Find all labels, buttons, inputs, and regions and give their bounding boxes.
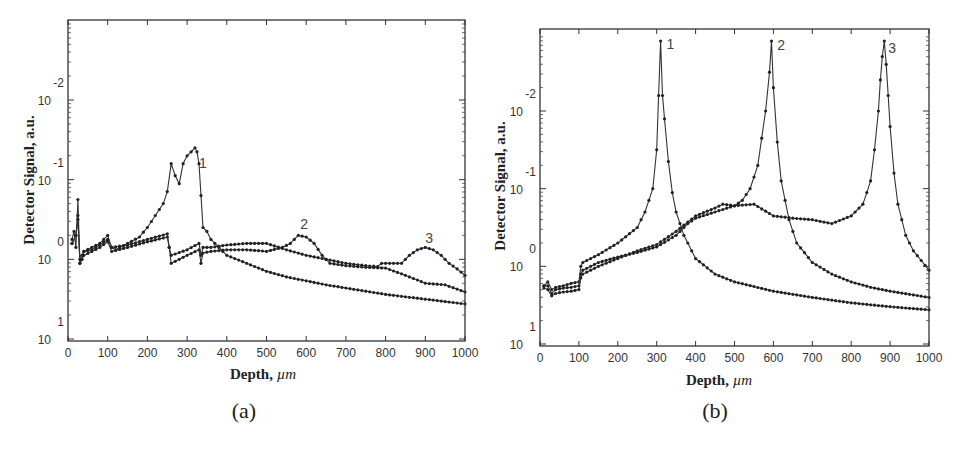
y-tick-label-exp: 0 (57, 235, 64, 249)
y-tick-label-base: 10 (38, 253, 52, 267)
x-tick-label: 900 (880, 351, 900, 365)
curve-label-1: 1 (666, 36, 674, 52)
x-tick-label: 300 (647, 351, 667, 365)
chart-panel-b: 123 0100200300400500600700800900100010-2… (492, 29, 943, 423)
plot-area-a: 123 (70, 146, 466, 305)
x-axis-title-b: Depth, µm (686, 372, 752, 388)
series-line-2 (544, 41, 929, 297)
plot-frame-a (68, 20, 465, 341)
y-tick-label-base: 10 (510, 338, 524, 352)
x-tick-label: 100 (569, 351, 589, 365)
x-tick-label: 200 (137, 346, 157, 360)
y-tick-label-exp: -2 (53, 76, 64, 90)
x-tick-label: 600 (763, 351, 783, 365)
y-tick-label-exp: -2 (525, 87, 536, 101)
y-tick-label-exp: 1 (529, 320, 536, 334)
series-markers-1 (70, 146, 466, 305)
figure: 123 0100200300400500600700800900100010-2… (0, 0, 956, 451)
y-tick-label-exp: -1 (525, 165, 536, 179)
x-tick-label: 200 (608, 351, 628, 365)
series-line-3 (544, 41, 929, 296)
series-markers-2 (70, 214, 466, 294)
series-line-1 (72, 148, 465, 304)
panel-label-b: (b) (702, 398, 728, 423)
x-tick-label: 400 (217, 346, 237, 360)
x-tick-label: 400 (686, 351, 706, 365)
x-tick-label: 1000 (452, 346, 479, 360)
x-tick-label: 0 (537, 351, 544, 365)
x-tick-label: 500 (724, 351, 744, 365)
y-tick-label-base: 10 (510, 260, 524, 274)
x-tick-label: 900 (415, 346, 435, 360)
series-markers-1 (542, 40, 930, 312)
x-tick-label: 800 (841, 351, 861, 365)
axis-ticks-a: 0100200300400500600700800900100010-210-1… (38, 20, 479, 360)
y-tick-label-base: 10 (510, 183, 524, 197)
y-tick-label-exp: 1 (57, 315, 64, 329)
x-tick-label: 600 (296, 346, 316, 360)
x-tick-label: 100 (98, 346, 118, 360)
panel-label-a: (a) (232, 398, 256, 423)
x-tick-label: 700 (802, 351, 822, 365)
x-tick-label: 800 (376, 346, 396, 360)
axis-ticks-b: 0100200300400500600700800900100010-210-1… (510, 29, 943, 365)
x-tick-label: 300 (177, 346, 197, 360)
x-tick-label: 700 (336, 346, 356, 360)
x-tick-label: 1000 (916, 351, 943, 365)
y-axis-title-b: Detector Signal, a.u. (492, 121, 508, 251)
plot-frame-b (540, 29, 929, 346)
y-tick-label-base: 10 (38, 94, 52, 108)
y-tick-label-base: 10 (38, 333, 52, 347)
curve-label-3: 3 (425, 230, 433, 246)
y-tick-label-exp: -1 (53, 156, 64, 170)
x-axis-title-a: Depth, µm (230, 366, 296, 382)
curve-label-1: 1 (199, 155, 207, 171)
curve-label-3: 3 (888, 40, 896, 56)
series-markers-3 (70, 218, 466, 277)
plot-area-b: 123 (542, 36, 930, 312)
x-tick-label: 0 (65, 346, 72, 360)
x-tick-label: 500 (256, 346, 276, 360)
series-line-2 (72, 216, 465, 293)
curve-label-2: 2 (777, 37, 785, 53)
y-tick-label-exp: 0 (529, 242, 536, 256)
y-tick-label-base: 10 (38, 174, 52, 188)
y-tick-label-base: 10 (510, 105, 524, 119)
chart-panel-a: 123 0100200300400500600700800900100010-2… (21, 20, 479, 423)
curve-label-2: 2 (300, 216, 308, 232)
y-axis-title-a: Detector Signal, a.u. (21, 115, 37, 245)
